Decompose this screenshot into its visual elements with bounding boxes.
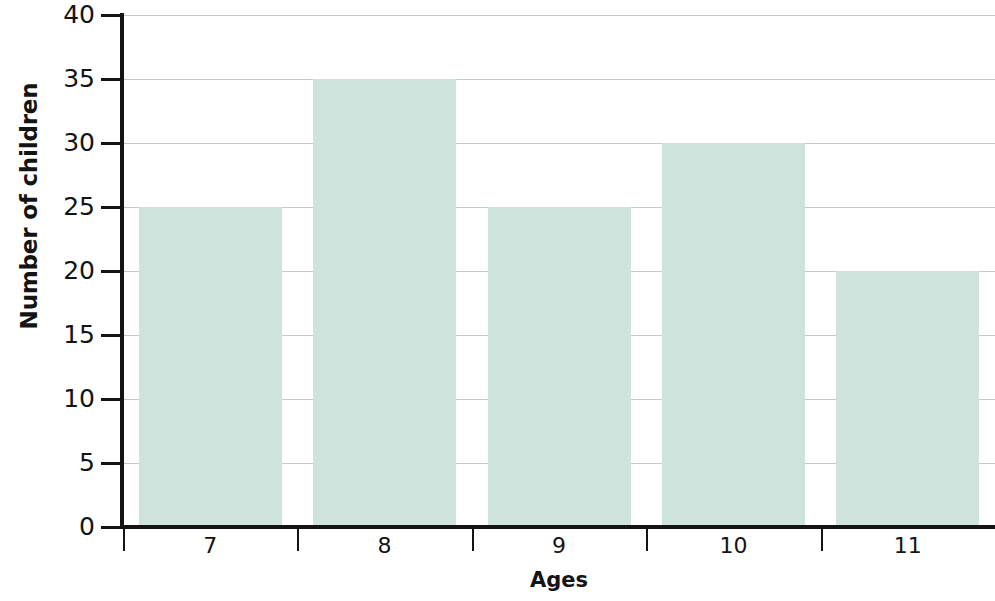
x-axis-tick <box>123 529 125 551</box>
x-axis-category-label: 9 <box>509 533 609 558</box>
x-axis-line <box>120 525 995 529</box>
x-axis-tick <box>646 529 648 551</box>
y-axis-tick <box>101 398 122 401</box>
y-axis-tick <box>101 334 122 337</box>
y-axis-tick <box>101 142 122 145</box>
y-axis-tick-label: 10 <box>20 386 95 411</box>
x-axis-category-label: 10 <box>683 533 783 558</box>
x-axis-title: Ages <box>123 568 995 592</box>
y-axis-tick-label: 15 <box>20 322 95 347</box>
y-axis-tick-label: 25 <box>20 194 95 219</box>
y-axis-tick <box>101 526 122 529</box>
x-axis-category-label: 7 <box>160 533 260 558</box>
y-axis-tick-label: 40 <box>20 2 95 27</box>
bar <box>836 271 979 527</box>
gridline <box>123 143 995 144</box>
bar-chart: Number of children 0510152025303540 7891… <box>0 0 995 601</box>
gridline <box>123 15 995 16</box>
y-axis-tick <box>101 270 122 273</box>
y-axis-tick <box>101 14 122 17</box>
y-axis-tick-label: 20 <box>20 258 95 283</box>
bar <box>313 79 456 527</box>
bar <box>488 207 631 527</box>
plot-area <box>123 15 995 527</box>
y-axis-line <box>120 13 124 529</box>
bar <box>139 207 282 527</box>
y-axis-tick <box>101 462 122 465</box>
y-axis-tick-label: 5 <box>20 450 95 475</box>
x-axis-tick <box>821 529 823 551</box>
y-axis-tick-label: 30 <box>20 130 95 155</box>
x-axis-category-label: 8 <box>335 533 435 558</box>
y-axis-tick-label: 35 <box>20 66 95 91</box>
y-axis-tick <box>101 206 122 209</box>
x-axis-tick <box>297 529 299 551</box>
y-axis-tick <box>101 78 122 81</box>
x-axis-tick <box>472 529 474 551</box>
y-axis-tick-label: 0 <box>20 514 95 539</box>
x-axis-category-label: 11 <box>858 533 958 558</box>
bar <box>662 143 805 527</box>
gridline <box>123 79 995 80</box>
